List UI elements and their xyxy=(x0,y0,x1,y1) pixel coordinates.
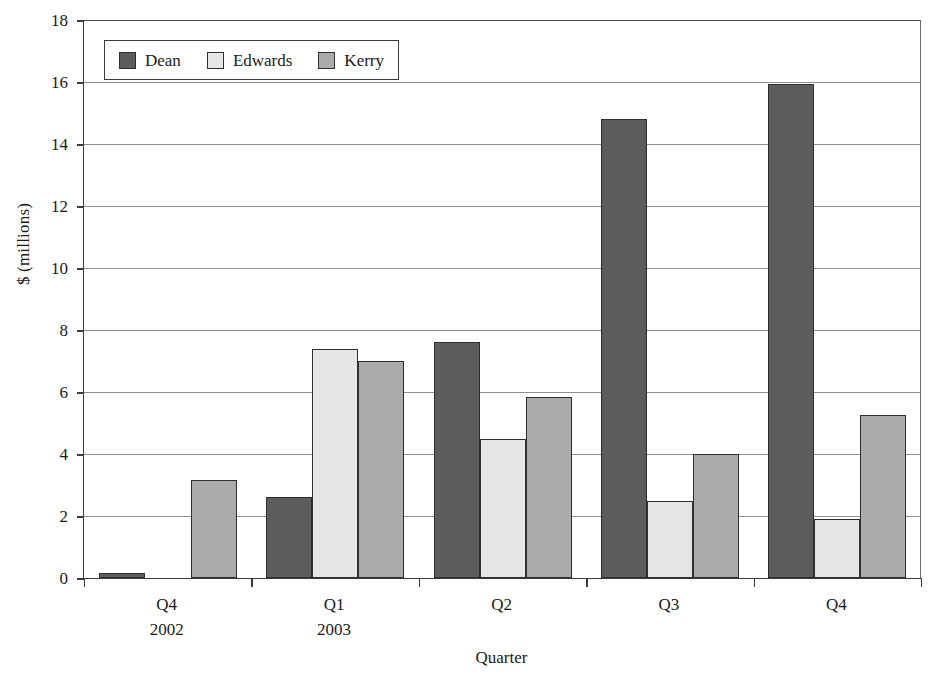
bar-edwards[interactable] xyxy=(647,501,693,579)
legend-entry-dean[interactable]: Dean xyxy=(119,52,181,69)
legend-swatch-icon xyxy=(119,52,136,69)
y-axis-tick xyxy=(77,392,84,394)
bar-slot xyxy=(480,20,526,578)
bar-slot xyxy=(145,20,191,578)
bar-slot xyxy=(647,20,693,578)
y-axis-tick-label: 18 xyxy=(0,12,68,29)
bar-kerry[interactable] xyxy=(693,454,739,578)
bar-slot xyxy=(693,20,739,578)
bar-slot xyxy=(601,20,647,578)
y-axis-tick-label: 12 xyxy=(0,198,68,215)
x-axis-tick-labels: Q42002Q12003Q2Q3Q4 xyxy=(83,592,920,650)
y-axis-tick xyxy=(77,144,84,146)
bar-group xyxy=(419,20,586,578)
bar-groups xyxy=(84,20,921,578)
legend-label: Dean xyxy=(145,52,181,69)
legend-label: Edwards xyxy=(233,52,292,69)
x-tick-label-line1: Q2 xyxy=(491,595,512,614)
bar-slot xyxy=(860,20,906,578)
bar-slot xyxy=(768,20,814,578)
bar-slot xyxy=(814,20,860,578)
plot-area xyxy=(83,20,921,579)
x-tick-label-line1: Q4 xyxy=(156,595,177,614)
bar-edwards[interactable] xyxy=(814,519,860,578)
x-axis-tick-label: Q2 xyxy=(418,592,585,650)
bar-dean[interactable] xyxy=(99,573,145,578)
y-axis-tick-label: 10 xyxy=(0,260,68,277)
x-axis-tick-label: Q3 xyxy=(585,592,752,650)
legend-label: Kerry xyxy=(344,52,384,69)
bar-dean[interactable] xyxy=(768,84,814,578)
bar-slot xyxy=(99,20,145,578)
bar-slot xyxy=(434,20,480,578)
x-tick-label-line2: 2002 xyxy=(83,617,250,642)
y-axis-tick-label: 16 xyxy=(0,74,68,91)
bar-slot xyxy=(191,20,237,578)
bar-slot xyxy=(312,20,358,578)
bar-kerry[interactable] xyxy=(358,361,404,578)
x-axis-tick xyxy=(754,578,755,587)
legend-swatch-icon xyxy=(318,52,335,69)
x-tick-label-line1: Q4 xyxy=(826,595,847,614)
bar-chart: $ (millions) 181614121086420 Q42002Q1200… xyxy=(0,0,931,678)
y-axis-tick-label: 14 xyxy=(0,136,68,153)
y-axis-tick-label: 2 xyxy=(0,508,68,525)
bar-kerry[interactable] xyxy=(860,415,906,578)
y-axis-tick-label: 6 xyxy=(0,384,68,401)
y-axis-tick-label: 4 xyxy=(0,446,68,463)
y-axis-tick-labels: 181614121086420 xyxy=(0,20,68,578)
y-axis-tick xyxy=(77,578,84,580)
x-tick-label-line2: 2003 xyxy=(250,617,417,642)
legend-entry-kerry[interactable]: Kerry xyxy=(318,52,384,69)
x-tick-label-line1: Q1 xyxy=(324,595,345,614)
bar-edwards[interactable] xyxy=(312,349,358,578)
y-axis-tick xyxy=(77,20,84,22)
y-axis-tick xyxy=(77,206,84,208)
bar-group xyxy=(754,20,921,578)
bar-slot xyxy=(358,20,404,578)
bar-kerry[interactable] xyxy=(526,397,572,578)
plot-right-border xyxy=(920,20,921,578)
y-axis-tick xyxy=(77,516,84,518)
y-axis-tick-label: 0 xyxy=(0,570,68,587)
x-axis-tick-label: Q12003 xyxy=(250,592,417,650)
bar-slot xyxy=(526,20,572,578)
legend: DeanEdwardsKerry xyxy=(104,40,399,80)
legend-swatch-icon xyxy=(207,52,224,69)
x-axis-tick-label: Q42002 xyxy=(83,592,250,650)
bar-dean[interactable] xyxy=(266,497,312,578)
x-tick-label-line1: Q3 xyxy=(659,595,680,614)
y-axis-tick-label: 8 xyxy=(0,322,68,339)
x-axis-tick xyxy=(251,578,252,587)
bar-group xyxy=(586,20,753,578)
x-axis-tick-label: Q4 xyxy=(753,592,920,650)
bar-slot xyxy=(266,20,312,578)
legend-entry-edwards[interactable]: Edwards xyxy=(207,52,292,69)
y-axis-tick xyxy=(77,330,84,332)
x-axis-title: Quarter xyxy=(83,648,920,668)
y-axis-tick xyxy=(77,268,84,270)
bar-kerry[interactable] xyxy=(191,480,237,578)
y-axis-tick xyxy=(77,454,84,456)
y-axis-tick xyxy=(77,82,84,84)
x-axis-tick xyxy=(586,578,587,587)
x-axis-tick xyxy=(419,578,420,587)
bar-dean[interactable] xyxy=(434,342,480,578)
bar-edwards[interactable] xyxy=(480,439,526,579)
x-axis-tick xyxy=(84,578,85,587)
x-axis-tick xyxy=(921,578,922,587)
bar-group xyxy=(251,20,418,578)
bar-dean[interactable] xyxy=(601,119,647,578)
bar-group xyxy=(84,20,251,578)
